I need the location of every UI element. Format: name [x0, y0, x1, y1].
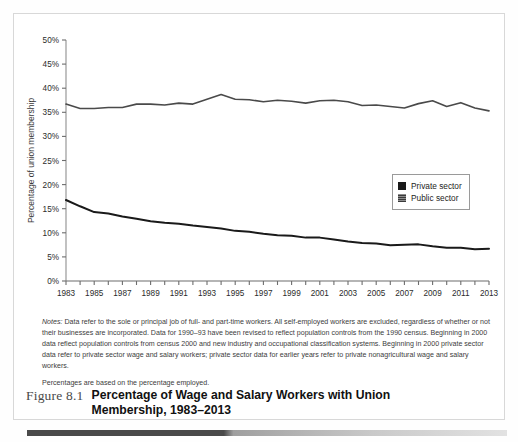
y-axis-tick-label: 0%	[47, 277, 59, 286]
x-axis-tick-label: 2011	[452, 289, 470, 298]
y-axis-tick-label: 15%	[43, 205, 59, 214]
legend-swatch-private-icon	[398, 182, 406, 190]
x-axis-tick-label: 1993	[198, 289, 217, 298]
y-axis-tick-label: 5%	[47, 253, 59, 262]
y-axis-title: Percentage of union membership	[26, 98, 36, 223]
y-axis-tick-label: 50%	[43, 36, 59, 45]
y-axis-tick-label: 25%	[43, 157, 59, 166]
x-axis-tick-label: 1999	[282, 289, 301, 298]
y-axis-tick-label: 45%	[43, 60, 59, 69]
line-chart: 0%5%10%15%20%25%30%35%40%45%50%Percentag…	[14, 14, 506, 299]
x-axis-tick-label: 2001	[311, 289, 330, 298]
legend-label-private: Private sector	[411, 181, 462, 191]
figure-frame: 0%5%10%15%20%25%30%35%40%45%50%Percentag…	[13, 13, 505, 420]
x-axis-tick-label: 1989	[141, 289, 160, 298]
x-axis-tick-label: 1983	[57, 289, 76, 298]
legend-item-private: Private sector	[398, 181, 462, 191]
x-axis-tick-label: 2005	[367, 289, 386, 298]
x-axis-tick-label: 1991	[170, 289, 189, 298]
y-axis-tick-label: 20%	[43, 181, 59, 190]
legend-label-public: Public sector	[411, 193, 459, 203]
chart-legend: Private sector Public sector	[392, 174, 470, 210]
figure-title: Percentage of Wage and Salary Workers wi…	[92, 388, 467, 419]
legend-swatch-public-icon	[398, 194, 406, 202]
y-axis-tick-label: 10%	[43, 229, 59, 238]
x-axis-tick-label: 1995	[226, 289, 245, 298]
legend-item-public: Public sector	[398, 193, 462, 203]
caption-rule	[27, 430, 507, 436]
y-axis-tick-label: 35%	[43, 108, 59, 117]
x-axis-tick-label: 2009	[423, 289, 442, 298]
x-axis-tick-label: 2003	[339, 289, 358, 298]
notes-label: Notes:	[42, 318, 63, 326]
notes-paragraph-1: Notes: Data refer to the sole or princip…	[42, 317, 490, 372]
series-line-public-sector	[66, 94, 489, 110]
figure-page: 0%5%10%15%20%25%30%35%40%45%50%Percentag…	[0, 0, 518, 442]
chart-area: 0%5%10%15%20%25%30%35%40%45%50%Percentag…	[14, 14, 506, 299]
figure-caption: Figure 8.1 Percentage of Wage and Salary…	[26, 388, 466, 419]
x-axis-tick-label: 1987	[113, 289, 132, 298]
x-axis-tick-label: 2013	[480, 289, 499, 298]
figure-number: Figure 8.1	[26, 388, 84, 404]
x-axis-tick-label: 1997	[254, 289, 273, 298]
notes-text-1: Data refer to the sole or principal job …	[42, 318, 490, 370]
y-axis-tick-label: 40%	[43, 84, 59, 93]
x-axis-tick-label: 1985	[85, 289, 104, 298]
x-axis-tick-label: 2007	[395, 289, 414, 298]
y-axis-tick-label: 30%	[43, 132, 59, 141]
figure-notes: Notes: Data refer to the sole or princip…	[42, 317, 490, 395]
